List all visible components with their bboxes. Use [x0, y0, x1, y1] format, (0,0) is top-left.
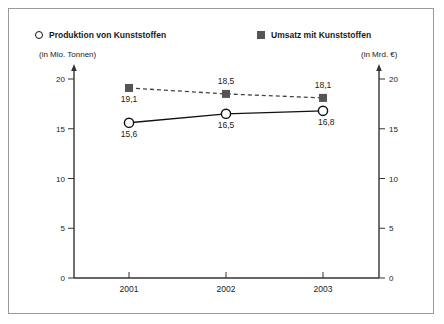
chart-frame: Produktion von Kunststoffen Umsatz mit K… [8, 8, 434, 314]
data-point-value-label: 16,5 [218, 120, 235, 130]
data-point-value-label: 18,5 [218, 76, 235, 86]
data-point-square-marker [125, 84, 133, 92]
y-axis-left-ticks [68, 79, 74, 278]
y-axis-left-tick-label: 15 [56, 124, 65, 133]
x-axis-tick-label: 2003 [314, 284, 333, 294]
y-axis-right-arrow-icon [376, 64, 382, 71]
y-axis-left-tick-label: 20 [56, 75, 65, 84]
data-point-square-marker [319, 94, 327, 102]
x-axis-ticks [129, 272, 323, 278]
x-axis-tick-label: 2001 [120, 284, 139, 294]
y-axis-left-arrow-icon [71, 64, 77, 71]
data-point-value-label: 18,1 [315, 80, 332, 90]
y-axis-right-tick-label: 0 [389, 274, 393, 283]
data-point-value-label: 19,1 [121, 94, 138, 104]
y-axis-right-ticks [379, 79, 385, 278]
y-axis-left-tick-label: 5 [61, 224, 65, 233]
plot-area [9, 9, 435, 315]
x-axis-tick-label: 2002 [217, 284, 236, 294]
data-point-circle-marker [318, 106, 327, 115]
y-axis-right-tick-label: 15 [389, 124, 398, 133]
y-axis-right-tick-label: 20 [389, 75, 398, 84]
y-axis-right-tick-label: 10 [389, 174, 398, 183]
data-point-circle-marker [221, 109, 230, 118]
series-markers-revenue [125, 84, 327, 102]
data-point-value-label: 15,6 [121, 129, 138, 139]
y-axis-right-tick-label: 5 [389, 224, 393, 233]
y-axis-left-tick-label: 0 [61, 274, 65, 283]
data-point-value-label: 16,8 [318, 117, 335, 127]
y-axis-left-tick-label: 10 [56, 174, 65, 183]
data-point-square-marker [222, 90, 230, 98]
data-point-circle-marker [124, 118, 133, 127]
